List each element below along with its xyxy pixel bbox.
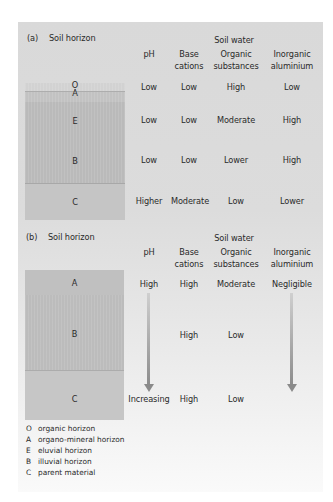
cell-base: High bbox=[180, 279, 198, 289]
part-a-title: Soil horizon bbox=[49, 33, 96, 43]
cell-organic: Moderate bbox=[217, 115, 255, 125]
col-base-b-2: cations bbox=[175, 259, 204, 269]
cell-base: Low bbox=[181, 115, 197, 125]
cell-ph: Low bbox=[141, 82, 157, 92]
cell-aluminium: Lower bbox=[280, 196, 304, 206]
part-a-label: (a) bbox=[27, 33, 38, 43]
cell-ph: High bbox=[140, 279, 158, 289]
col-organic-a-1: Organic bbox=[220, 49, 251, 59]
cell-ph: Low bbox=[141, 155, 157, 165]
cell-ph: Increasing bbox=[128, 394, 169, 404]
legend-item: Cparent material bbox=[26, 468, 95, 477]
soil-profile-b: A B C bbox=[25, 270, 124, 419]
legend-text: parent material bbox=[38, 468, 95, 477]
legend-item: Aorgano-mineral horizon bbox=[26, 435, 125, 444]
cell-organic: Low bbox=[228, 196, 244, 206]
col-inorganic-a-2: aluminium bbox=[271, 61, 313, 71]
part-b-label: (b) bbox=[26, 232, 37, 242]
col-organic-b-1: Organic bbox=[220, 247, 251, 257]
cell-organic: High bbox=[227, 82, 245, 92]
cell-aluminium: High bbox=[283, 155, 301, 165]
cell-ph: Low bbox=[141, 115, 157, 125]
cell-base: High bbox=[180, 330, 198, 340]
col-base-b-1: Base bbox=[179, 247, 199, 257]
legend-text: illuvial horizon bbox=[38, 457, 92, 466]
soil-water-heading-b: Soil water bbox=[214, 233, 254, 243]
cell-organic: Low bbox=[228, 330, 244, 340]
cell-organic: Low bbox=[228, 394, 244, 404]
legend-key: C bbox=[26, 468, 38, 477]
cell-aluminium: High bbox=[283, 115, 301, 125]
legend-text: eluvial horizon bbox=[38, 446, 92, 455]
legend-item: Oorganic horizon bbox=[26, 424, 95, 433]
cell-base: High bbox=[180, 394, 198, 404]
cell-aluminium: Negligible bbox=[272, 279, 312, 289]
part-b-title: Soil horizon bbox=[48, 232, 95, 242]
legend-text: organo-mineral horizon bbox=[38, 435, 125, 444]
col-ph-b: pH bbox=[143, 247, 154, 257]
cell-base: Low bbox=[181, 155, 197, 165]
col-inorganic-a-1: Inorganic bbox=[273, 49, 310, 59]
cell-organic: Lower bbox=[224, 155, 248, 165]
legend-key: B bbox=[26, 457, 38, 466]
col-base-a-2: cations bbox=[175, 61, 204, 71]
layer-A-label: A bbox=[72, 88, 78, 98]
legend-key: E bbox=[26, 446, 38, 455]
col-inorganic-b-1: Inorganic bbox=[273, 247, 310, 257]
col-organic-b-2: substances bbox=[213, 259, 258, 269]
legend-key: A bbox=[26, 435, 38, 444]
layer-B-label: B bbox=[72, 156, 78, 166]
layer-B-label: B bbox=[72, 329, 78, 339]
soil-water-heading-a: Soil water bbox=[214, 35, 254, 45]
legend-item: Billuvial horizon bbox=[26, 457, 92, 466]
legend-item: Eeluvial horizon bbox=[26, 446, 92, 455]
cell-base: Low bbox=[181, 82, 197, 92]
legend-key: O bbox=[26, 424, 38, 433]
col-base-a-1: Base bbox=[179, 49, 199, 59]
soil-profile-a: O A E B C bbox=[25, 83, 125, 219]
layer-C-label: C bbox=[72, 394, 78, 404]
layer-A-label: A bbox=[72, 278, 78, 288]
cell-ph: Higher bbox=[136, 196, 163, 206]
cell-organic: Moderate bbox=[217, 279, 255, 289]
col-inorganic-b-2: aluminium bbox=[271, 259, 313, 269]
cell-base: Moderate bbox=[171, 196, 209, 206]
layer-E-B bbox=[25, 102, 125, 183]
col-organic-a-2: substances bbox=[213, 61, 258, 71]
layer-C-label: C bbox=[72, 197, 78, 207]
layer-E-label: E bbox=[72, 116, 77, 126]
col-ph-a: pH bbox=[143, 49, 154, 59]
legend-text: organic horizon bbox=[38, 424, 95, 433]
cell-aluminium: Low bbox=[284, 82, 300, 92]
